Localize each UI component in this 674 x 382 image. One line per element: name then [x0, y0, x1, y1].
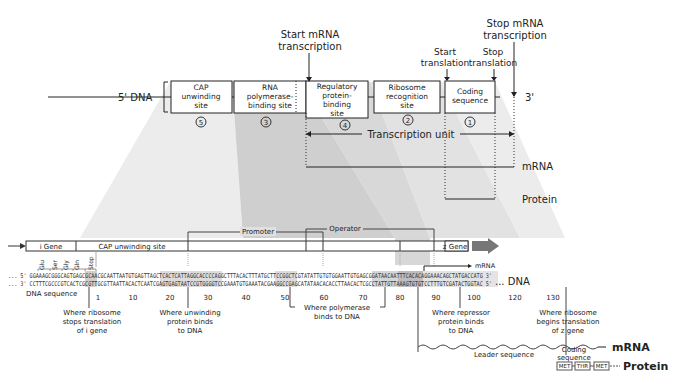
annotation-repressor-binds: Where repressor protein binds to DNA [432, 309, 490, 335]
svg-text:4: 4 [343, 122, 348, 130]
annotation-ribosome-stops: Where ribosome stops translation of i ge… [63, 309, 122, 335]
svg-text:sequence: sequence [452, 96, 489, 105]
svg-text:1: 1 [96, 294, 100, 302]
svg-text:binds to DNA: binds to DNA [314, 313, 360, 321]
svg-text:Coding: Coding [457, 87, 483, 96]
svg-text:protein-: protein- [322, 91, 352, 100]
mrna-label: mRNA [522, 161, 553, 172]
svg-text:recognition: recognition [386, 92, 428, 101]
dna-bottom-strand: ... 3' CCTTTCGCCCGTCACTCGCGTTGCGTTAATTAC… [8, 280, 492, 288]
z-gene-label: z Gene [443, 243, 467, 251]
five-prime-label: 5' DNA [118, 92, 152, 103]
svg-text:polymerase-: polymerase- [247, 92, 294, 101]
protein-product-label: Protein [623, 360, 668, 373]
svg-text:70: 70 [359, 294, 368, 302]
svg-text:transcription: transcription [483, 30, 547, 41]
svg-text:translation: translation [469, 58, 517, 68]
svg-text:binding: binding [323, 100, 351, 109]
protein-label: Protein [522, 194, 557, 205]
start-mrna-label: Start mRNA [281, 29, 340, 40]
svg-text:90: 90 [432, 294, 441, 302]
transcription-unit-label: Transcription unit [367, 129, 455, 140]
lac-operon-diagram: 5' DNA 3' CAP unwinding site RNA polymer… [0, 0, 674, 382]
svg-text:Where repressor: Where repressor [432, 309, 490, 317]
dna-sequence-label: DNA sequence [26, 290, 77, 298]
polymerase-binding-box: RNA polymerase- binding site [234, 81, 306, 113]
svg-text:5: 5 [199, 119, 203, 127]
mrna-start-label: mRNA [475, 262, 496, 270]
svg-text:Gln: Gln [73, 260, 80, 270]
svg-text:RNA: RNA [262, 83, 279, 92]
cap-unwinding-box: CAP unwinding site [171, 81, 232, 113]
svg-text:Gly: Gly [62, 260, 70, 270]
svg-text:2: 2 [406, 117, 410, 125]
annotation-polymerase-binds: Where polymerase binds to DNA [304, 304, 370, 321]
svg-text:CAP: CAP [194, 83, 209, 92]
svg-text:1: 1 [468, 119, 472, 127]
position-ticks: 1 10 20 30 40 50 60 70 80 90 100 120 130 [96, 294, 560, 302]
svg-text:transcription: transcription [278, 41, 342, 52]
coding-sequence-label: Coding [562, 346, 586, 354]
svg-text:120: 120 [508, 294, 521, 302]
leader-sequence-label: Leader sequence [474, 351, 534, 359]
svg-text:Where ribosome: Where ribosome [539, 309, 597, 317]
svg-text:60: 60 [320, 294, 329, 302]
svg-text:to DNA: to DNA [449, 327, 474, 335]
annotation-unwinding-binds: Where unwinding protein binds to DNA [159, 309, 220, 335]
coding-sequence-box: Coding sequence [445, 81, 495, 113]
svg-text:unwinding: unwinding [182, 92, 221, 101]
svg-text:Ser: Ser [51, 260, 58, 271]
three-prime-label: 3' [525, 92, 534, 103]
codon-labels: Glu Ser Gly Gln Stop [38, 256, 95, 270]
svg-text:10: 10 [129, 294, 138, 302]
stop-mrna-label: Stop mRNA [487, 18, 544, 29]
svg-text:MET: MET [596, 363, 608, 369]
svg-text:begins translation: begins translation [536, 318, 599, 326]
svg-text:Where ribosome: Where ribosome [63, 309, 121, 317]
svg-text:Where unwinding: Where unwinding [159, 309, 220, 317]
svg-text:to DNA: to DNA [178, 327, 203, 335]
svg-text:MET: MET [559, 363, 571, 369]
svg-text:3: 3 [264, 119, 268, 127]
start-translation-label: Start [434, 47, 456, 57]
svg-text:20: 20 [166, 294, 175, 302]
svg-text:40: 40 [242, 294, 251, 302]
svg-text:30: 30 [204, 294, 213, 302]
svg-text:stops translation: stops translation [63, 318, 122, 326]
stop-translation-label: Stop [483, 47, 504, 57]
svg-text:binding site: binding site [248, 101, 292, 110]
svg-text:site: site [330, 109, 344, 118]
svg-text:50: 50 [281, 294, 290, 302]
i-gene-label: i Gene [40, 243, 63, 251]
svg-text:Glu: Glu [38, 260, 45, 270]
operator-label: Operator [329, 225, 360, 233]
dna-label: ... DNA [495, 276, 530, 287]
svg-text:protein binds: protein binds [438, 318, 484, 326]
svg-text:of z gene: of z gene [552, 327, 584, 335]
svg-text:protein binds: protein binds [167, 318, 213, 326]
svg-text:130: 130 [546, 294, 559, 302]
svg-text:Stop: Stop [87, 256, 95, 270]
svg-text:100: 100 [467, 294, 480, 302]
svg-text:site: site [194, 101, 208, 110]
ribosome-recognition-box: Ribosome recognition site [374, 81, 440, 113]
dna-top-strand: ... 5' GGAAAGCGGGCAGTGAGCGCAACGCAATTAATG… [8, 272, 492, 280]
svg-text:Regulatory: Regulatory [317, 82, 358, 91]
promoter-label: Promoter [242, 228, 274, 236]
protein-chain: MET THR MET [557, 362, 620, 370]
svg-text:THR: THR [576, 363, 588, 369]
svg-text:Ribosome: Ribosome [388, 83, 425, 92]
annotation-ribosome-begins: Where ribosome begins translation of z g… [536, 309, 599, 335]
cap-site-label: CAP unwinding site [98, 243, 165, 251]
svg-text:translation: translation [421, 58, 469, 68]
regulatory-binding-box: Regulatory protein- binding site [306, 81, 368, 118]
svg-text:80: 80 [396, 294, 405, 302]
svg-text:of i gene: of i gene [77, 327, 108, 335]
svg-text:site: site [400, 101, 414, 110]
svg-text:Where polymerase: Where polymerase [304, 304, 370, 312]
svg-text:sequence: sequence [557, 354, 591, 362]
mrna-product-label: mRNA [612, 341, 650, 354]
